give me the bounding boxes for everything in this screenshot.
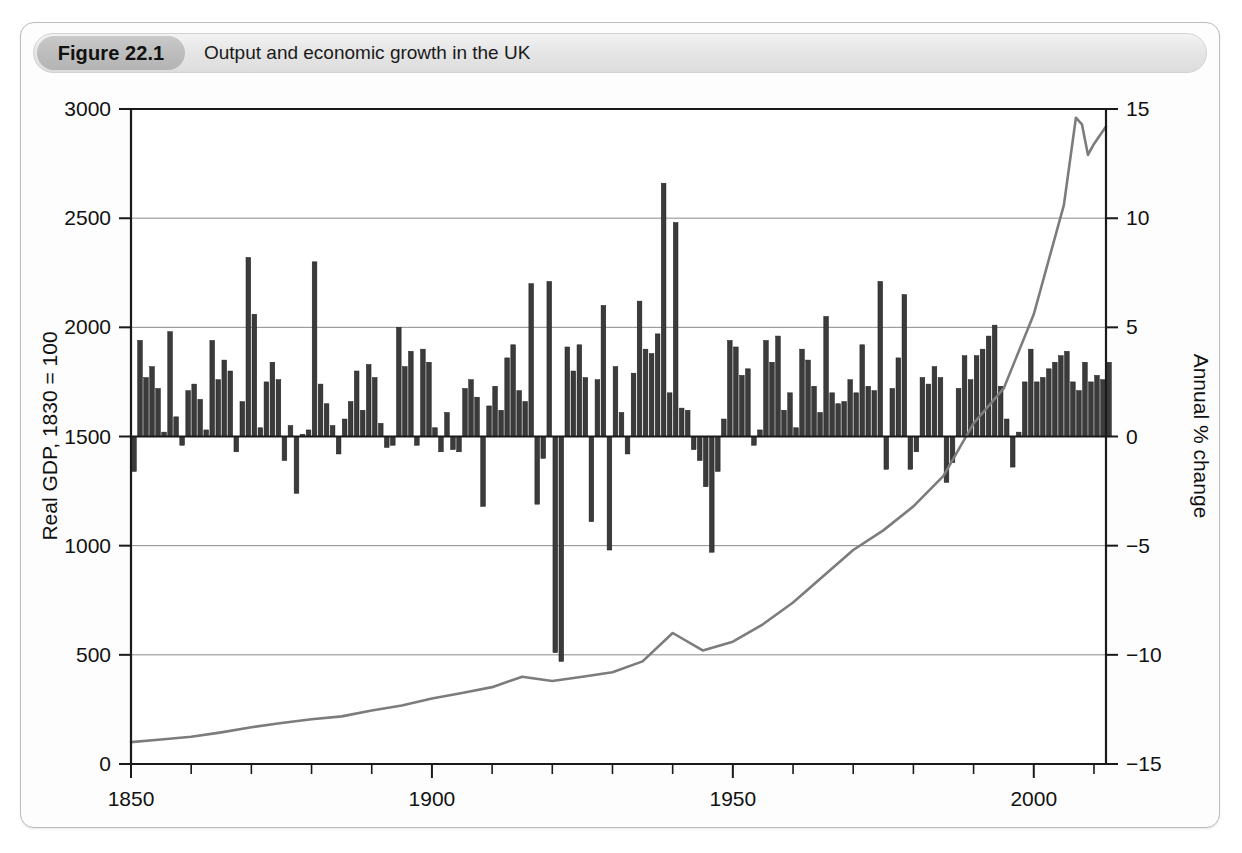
right-axis-tick-label: 0 — [1126, 425, 1138, 448]
annual-change-bar — [228, 371, 233, 437]
annual-change-bar — [956, 388, 961, 436]
annual-change-bar — [372, 378, 377, 437]
annual-change-bar — [553, 437, 558, 653]
annual-change-bar — [517, 391, 522, 437]
annual-change-bar — [174, 417, 179, 437]
annual-change-bar — [715, 437, 720, 472]
annual-change-bar — [938, 378, 943, 437]
left-axis-tick-label: 1500 — [64, 425, 111, 448]
figure-number-label: Figure 22.1 — [58, 42, 165, 65]
annual-change-bar — [649, 354, 654, 437]
annual-change-bar — [619, 412, 624, 436]
annual-change-bar — [270, 362, 275, 436]
annual-change-bar — [932, 367, 937, 437]
figure-title: Output and economic growth in the UK — [204, 34, 530, 72]
annual-change-bar — [812, 386, 817, 436]
right-axis-tick-label: −15 — [1126, 752, 1162, 775]
annual-change-bar — [396, 327, 401, 436]
annual-change-bar — [312, 262, 317, 437]
annual-change-bar — [1059, 356, 1064, 437]
annual-change-bar — [288, 426, 293, 437]
annual-change-bar — [409, 351, 414, 436]
annual-change-bar — [607, 437, 612, 551]
annual-change-bar — [1004, 419, 1009, 436]
annual-change-bar — [980, 349, 985, 436]
annual-change-bar — [625, 437, 630, 454]
annual-change-bar — [571, 371, 576, 437]
annual-change-bar — [1022, 382, 1027, 437]
annual-change-bar — [342, 419, 347, 436]
annual-change-bar — [884, 437, 889, 470]
annual-change-bar — [764, 340, 769, 436]
annual-change-bar — [878, 281, 883, 436]
annual-change-bar — [427, 362, 432, 436]
annual-change-bar — [1095, 375, 1100, 436]
chart-svg: 050010001500200025003000−15−10−505101518… — [21, 79, 1220, 827]
annual-change-bar — [673, 223, 678, 437]
annual-change-bar — [631, 373, 636, 436]
annual-change-bar — [806, 360, 811, 436]
annual-change-bar — [782, 410, 787, 436]
annual-change-bar — [240, 402, 245, 437]
annual-change-bar — [643, 349, 648, 436]
right-axis-tick-label: 5 — [1126, 315, 1138, 338]
left-axis-tick-label: 1000 — [64, 534, 111, 557]
annual-change-bar — [529, 284, 534, 437]
annual-change-bar — [415, 437, 420, 446]
annual-change-bar — [324, 404, 329, 437]
x-axis-tick-label: 1950 — [709, 787, 756, 810]
annual-change-bar — [1083, 362, 1088, 436]
annual-change-bar — [487, 406, 492, 437]
annual-change-bar — [138, 340, 143, 436]
figure-number-badge: Figure 22.1 — [37, 36, 185, 70]
annual-change-bar — [451, 437, 456, 450]
annual-change-bar — [685, 410, 690, 436]
annual-change-bar — [282, 437, 287, 461]
annual-change-bar — [535, 437, 540, 505]
annual-change-bar — [1052, 362, 1057, 436]
annual-change-bar — [992, 325, 997, 436]
annual-change-bar — [734, 347, 739, 437]
annual-change-bar — [390, 437, 395, 446]
annual-change-bar — [818, 412, 823, 436]
annual-change-bar — [439, 437, 444, 452]
annual-change-bar — [740, 375, 745, 436]
left-axis-tick-label: 500 — [76, 643, 111, 666]
annual-change-bar — [276, 380, 281, 437]
annual-change-bar — [914, 437, 919, 452]
annual-change-bar — [547, 281, 552, 436]
annual-change-bar — [318, 384, 323, 436]
left-axis-title: Real GDP, 1830 = 100 — [38, 331, 61, 540]
annual-change-bar — [1107, 362, 1112, 436]
annual-change-bar — [794, 428, 799, 437]
annual-change-bar — [613, 367, 618, 437]
annual-change-bar — [378, 423, 383, 436]
annual-change-bar — [583, 378, 588, 437]
annual-change-bar — [962, 356, 967, 437]
x-axis-tick-label: 2000 — [1010, 787, 1057, 810]
annual-change-bar — [144, 378, 149, 437]
annual-change-bar — [848, 380, 853, 437]
annual-change-bar — [836, 404, 841, 437]
annual-change-bar — [1028, 349, 1033, 436]
annual-change-bar — [709, 437, 714, 553]
x-axis-tick-label: 1900 — [409, 787, 456, 810]
right-axis-tick-label: −10 — [1126, 643, 1162, 666]
annual-change-bar — [908, 437, 913, 470]
annual-change-bar — [511, 345, 516, 437]
right-axis-tick-label: −5 — [1126, 534, 1150, 557]
annual-change-bar — [1040, 378, 1045, 437]
annual-change-bar — [168, 332, 173, 437]
annual-change-bar — [896, 358, 901, 437]
annual-change-bar — [589, 437, 594, 522]
annual-change-bar — [697, 437, 702, 461]
annual-change-bar — [661, 183, 666, 436]
annual-change-bar — [986, 336, 991, 436]
annual-change-bar — [1077, 391, 1082, 437]
annual-change-bar — [234, 437, 239, 452]
annual-change-bar — [902, 295, 907, 437]
annual-change-bar — [499, 410, 504, 436]
annual-change-bar — [595, 380, 600, 437]
annual-change-bar — [457, 437, 462, 452]
annual-change-bar — [721, 419, 726, 436]
